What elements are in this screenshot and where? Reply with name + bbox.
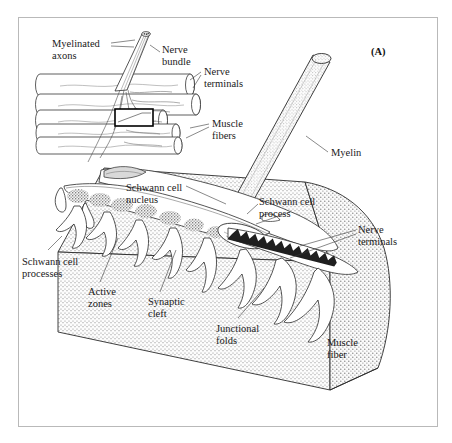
- label-schwann-cell-process: Schwann cell process: [259, 196, 315, 220]
- label-myelinated-axons: Myelinated axons: [52, 38, 100, 62]
- label-muscle-fibers: Muscle fibers: [212, 118, 243, 142]
- label-active-zones: Active zones: [88, 286, 116, 310]
- panel-label: (A): [371, 46, 386, 57]
- label-schwann-cell-processes: Schwann cell processes: [22, 256, 78, 280]
- label-myelin: Myelin: [331, 147, 361, 159]
- label-nerve-terminals-main: Nerve terminals: [358, 224, 397, 248]
- label-junctional-folds: Junctional folds: [216, 323, 259, 347]
- label-nerve-terminals-inset: Nerve terminals: [204, 66, 243, 90]
- label-synaptic-cleft: Synaptic cleft: [148, 296, 185, 320]
- figure-canvas: (A) Myelinated axons Nerve bundle Nerve …: [0, 0, 452, 443]
- label-nerve-bundle: Nerve bundle: [162, 44, 191, 68]
- label-schwann-cell-nucleus: Schwann cell nucleus: [126, 182, 182, 206]
- label-muscle-fiber: Muscle fiber: [327, 337, 358, 361]
